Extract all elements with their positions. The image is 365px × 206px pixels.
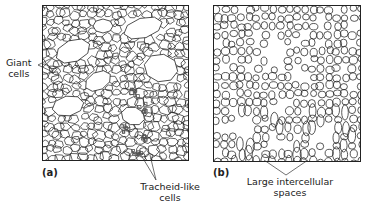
tracheid-label-line1: Tracheid-like <box>130 181 210 192</box>
intercellular-label-line1: Large intercellular <box>240 176 340 187</box>
panel-b-cells <box>214 6 361 162</box>
large-intercellular-spaces-label: Large intercellular spaces <box>240 176 340 198</box>
giant-cells-label-line1: Giant <box>6 57 32 68</box>
panel-a-cells <box>43 6 189 161</box>
intercellular-label-line2: spaces <box>240 187 340 198</box>
panel-b-cell-diagram <box>213 5 361 162</box>
panel-a-letter: (a) <box>42 167 58 178</box>
tracheid-label-line2: cells <box>130 192 210 203</box>
giant-cells-label-line2: cells <box>6 68 32 79</box>
panel-a-cell-diagram <box>42 5 189 161</box>
giant-cells-label: Giant cells <box>6 57 32 79</box>
tracheid-like-cells-label: Tracheid-like cells <box>130 181 210 203</box>
panel-b-letter: (b) <box>213 167 229 178</box>
